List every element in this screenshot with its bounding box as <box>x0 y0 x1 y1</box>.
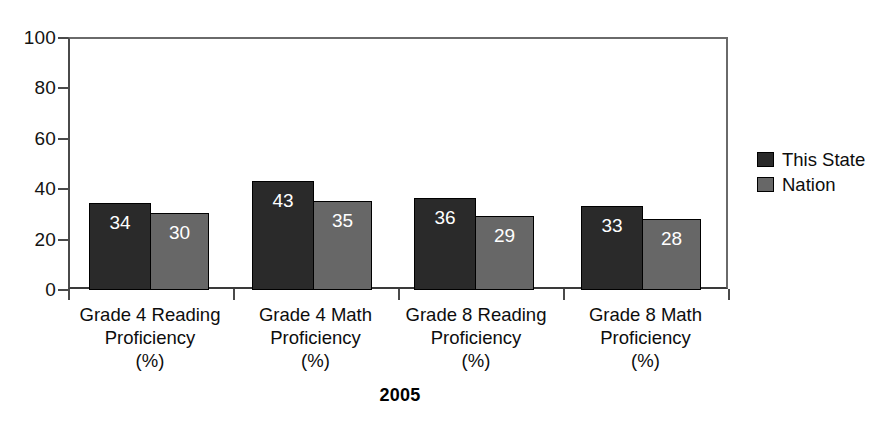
x-axis-tick-0 <box>68 289 70 300</box>
y-axis-label-20: 20 <box>4 230 56 249</box>
bar-nation-grade-4-math[interactable]: 35 <box>313 201 372 290</box>
bar-value-label: 35 <box>314 211 371 230</box>
y-axis-tick-60 <box>58 138 68 140</box>
x-axis-category-label-grade-4-math: Grade 4 Math Proficiency (%) <box>228 303 403 372</box>
bar-chart: 100 80 60 40 20 0 34 30 43 35 36 29 <box>0 0 890 433</box>
y-axis-tick-40 <box>58 188 68 190</box>
category-label-line-3: (%) <box>228 349 403 372</box>
y-axis-tick-0 <box>58 289 68 291</box>
category-label-line-1: Grade 8 Reading <box>386 303 566 326</box>
x-axis-category-label-grade-4-reading: Grade 4 Reading Proficiency (%) <box>60 303 240 372</box>
y-axis-label-60: 60 <box>4 129 56 148</box>
bar-value-label: 30 <box>151 223 208 242</box>
y-axis-tick-100 <box>58 37 68 39</box>
category-label-line-3: (%) <box>558 349 733 372</box>
bar-nation-grade-8-reading[interactable]: 29 <box>475 216 534 290</box>
category-label-line-2: Proficiency <box>558 326 733 349</box>
bar-this-state-grade-8-math[interactable]: 33 <box>581 206 643 290</box>
x-axis-category-label-grade-8-math: Grade 8 Math Proficiency (%) <box>558 303 733 372</box>
category-label-line-1: Grade 8 Math <box>558 303 733 326</box>
legend: This State Nation <box>757 148 865 198</box>
legend-swatch-icon-this-state <box>757 152 774 167</box>
category-label-line-2: Proficiency <box>386 326 566 349</box>
bar-this-state-grade-4-math[interactable]: 43 <box>252 181 314 290</box>
x-axis-tick-3 <box>563 289 565 300</box>
category-label-line-3: (%) <box>60 349 240 372</box>
y-axis-label-0: 0 <box>4 280 56 299</box>
legend-swatch-icon-nation <box>757 177 774 192</box>
x-axis-tick-2 <box>398 289 400 300</box>
y-axis-label-100: 100 <box>4 28 56 47</box>
x-axis-category-label-grade-8-reading: Grade 8 Reading Proficiency (%) <box>386 303 566 372</box>
legend-item-this-state[interactable]: This State <box>757 148 865 170</box>
category-label-line-2: Proficiency <box>60 326 240 349</box>
bar-value-label: 43 <box>253 191 313 210</box>
legend-label-nation: Nation <box>782 175 835 194</box>
category-label-line-1: Grade 4 Reading <box>60 303 240 326</box>
bar-this-state-grade-4-reading[interactable]: 34 <box>89 203 151 290</box>
category-label-line-3: (%) <box>386 349 566 372</box>
x-axis-title: 2005 <box>330 385 470 406</box>
category-label-line-1: Grade 4 Math <box>228 303 403 326</box>
x-axis-tick-4 <box>728 289 730 300</box>
y-axis-tick-20 <box>58 239 68 241</box>
bar-nation-grade-8-math[interactable]: 28 <box>642 219 701 290</box>
legend-item-nation[interactable]: Nation <box>757 173 865 195</box>
x-axis-tick-1 <box>233 289 235 300</box>
bar-value-label: 29 <box>476 226 533 245</box>
bar-this-state-grade-8-reading[interactable]: 36 <box>414 198 476 290</box>
y-axis-label-80: 80 <box>4 78 56 97</box>
bar-value-label: 36 <box>415 208 475 227</box>
bar-value-label: 28 <box>643 229 700 248</box>
legend-label-this-state: This State <box>782 150 865 169</box>
bar-value-label: 34 <box>90 213 150 232</box>
category-label-line-2: Proficiency <box>228 326 403 349</box>
y-axis-label-40: 40 <box>4 179 56 198</box>
bar-value-label: 33 <box>582 216 642 235</box>
bar-nation-grade-4-reading[interactable]: 30 <box>150 213 209 290</box>
y-axis-tick-80 <box>58 87 68 89</box>
